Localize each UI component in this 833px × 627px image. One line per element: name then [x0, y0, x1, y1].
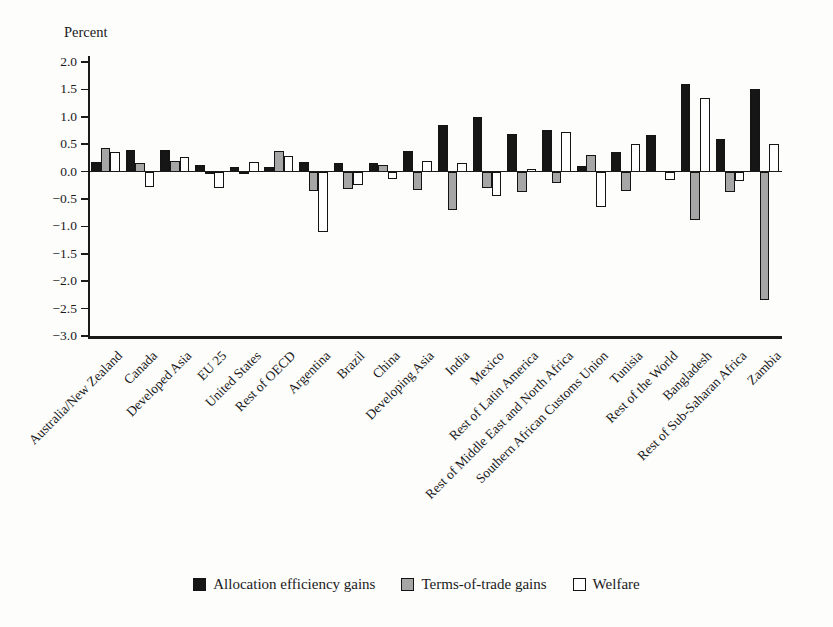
y-tick	[81, 89, 88, 91]
y-tick-label: −2.0	[33, 273, 77, 289]
bar-welfare	[214, 172, 224, 188]
bar-welfare	[700, 98, 710, 172]
bar-welfare	[769, 144, 779, 171]
bar-welfare	[735, 172, 745, 182]
bar-welfare	[318, 172, 328, 232]
y-tick	[81, 198, 88, 200]
bar-chart: Percent Allocation efficiency gainsTerms…	[0, 0, 833, 627]
y-tick	[81, 280, 88, 282]
bar-allocation-efficiency-gains	[473, 117, 483, 172]
y-tick-label: −0.5	[33, 191, 77, 207]
legend-label: Terms-of-trade gains	[421, 576, 546, 593]
bar-welfare	[284, 156, 294, 171]
bar-allocation-efficiency-gains	[160, 150, 170, 172]
bar-welfare	[561, 132, 571, 171]
bar-allocation-efficiency-gains	[611, 152, 621, 171]
bar-allocation-efficiency-gains	[542, 130, 552, 172]
bar-allocation-efficiency-gains	[750, 89, 760, 171]
legend-label: Allocation efficiency gains	[213, 576, 375, 593]
legend-swatch-icon	[573, 578, 586, 591]
bar-terms-of-trade-gains	[621, 172, 631, 191]
bar-allocation-efficiency-gains	[681, 84, 691, 172]
legend-swatch-icon	[401, 578, 414, 591]
bar-terms-of-trade-gains	[343, 172, 353, 190]
bar-welfare	[492, 172, 502, 197]
bar-allocation-efficiency-gains	[507, 134, 517, 171]
x-axis-label: Brazil	[334, 348, 369, 383]
y-tick-label: −2.5	[33, 301, 77, 317]
y-tick-label: 0.0	[33, 164, 77, 180]
bar-terms-of-trade-gains	[517, 172, 527, 192]
y-tick-label: −1.5	[33, 246, 77, 262]
y-tick	[81, 335, 88, 337]
bar-terms-of-trade-gains	[101, 148, 111, 172]
x-axis-label: Zambia	[744, 348, 784, 388]
bar-terms-of-trade-gains	[448, 172, 458, 210]
bar-welfare	[388, 172, 398, 179]
y-tick	[81, 143, 88, 145]
y-tick	[81, 171, 88, 173]
chart-legend: Allocation efficiency gainsTerms-of-trad…	[0, 576, 833, 593]
y-tick-label: −3.0	[33, 328, 77, 344]
x-axis	[88, 336, 782, 339]
bar-terms-of-trade-gains	[413, 172, 423, 190]
bar-welfare	[631, 144, 641, 171]
y-tick	[81, 308, 88, 310]
bar-allocation-efficiency-gains	[126, 150, 136, 172]
legend-item: Welfare	[573, 576, 640, 593]
bar-terms-of-trade-gains	[309, 172, 319, 191]
bar-terms-of-trade-gains	[274, 151, 284, 171]
bar-terms-of-trade-gains	[586, 155, 596, 171]
y-tick	[81, 253, 88, 255]
y-tick-label: 2.0	[33, 54, 77, 70]
bar-welfare	[145, 172, 155, 187]
legend-item: Terms-of-trade gains	[401, 576, 546, 593]
bar-welfare	[596, 172, 606, 208]
bar-allocation-efficiency-gains	[438, 125, 448, 172]
y-tick-label: 0.5	[33, 136, 77, 152]
bar-terms-of-trade-gains	[760, 172, 770, 301]
y-axis-title: Percent	[64, 24, 107, 41]
y-tick-label: 1.0	[33, 109, 77, 125]
bar-welfare	[180, 157, 190, 171]
y-tick	[81, 226, 88, 228]
legend-swatch-icon	[193, 578, 206, 591]
bar-allocation-efficiency-gains	[716, 139, 726, 172]
bar-allocation-efficiency-gains	[646, 135, 656, 172]
y-tick	[81, 61, 88, 63]
zero-baseline	[88, 171, 782, 173]
legend-label: Welfare	[593, 576, 640, 593]
y-tick-label: 1.5	[33, 81, 77, 97]
bar-terms-of-trade-gains	[725, 172, 735, 193]
y-tick	[81, 116, 88, 118]
bar-welfare	[110, 152, 120, 171]
bar-terms-of-trade-gains	[482, 172, 492, 188]
y-tick-label: −1.0	[33, 218, 77, 234]
y-axis	[88, 56, 90, 338]
bar-allocation-efficiency-gains	[403, 151, 413, 172]
bar-terms-of-trade-gains	[552, 172, 562, 183]
legend-item: Allocation efficiency gains	[193, 576, 375, 593]
bar-welfare	[665, 172, 675, 180]
bar-terms-of-trade-gains	[690, 172, 700, 220]
x-axis-label: Australia/New Zealand	[26, 348, 126, 448]
bar-welfare	[353, 172, 363, 186]
